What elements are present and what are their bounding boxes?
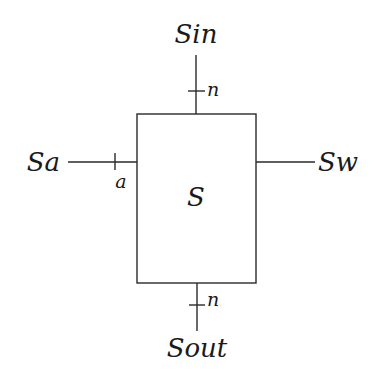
block-label: S <box>187 182 205 212</box>
port-label-sout: Sout <box>167 333 228 363</box>
block-diagram: S Sin n Sa a Sw Sout n <box>0 0 374 377</box>
bus-width-label-sa: a <box>115 170 126 192</box>
bus-width-label-sout: n <box>207 288 219 310</box>
port-label-sin: Sin <box>175 19 218 49</box>
bus-width-label-sin: n <box>207 78 219 100</box>
port-label-sa: Sa <box>27 147 60 177</box>
port-label-sw: Sw <box>318 147 358 177</box>
